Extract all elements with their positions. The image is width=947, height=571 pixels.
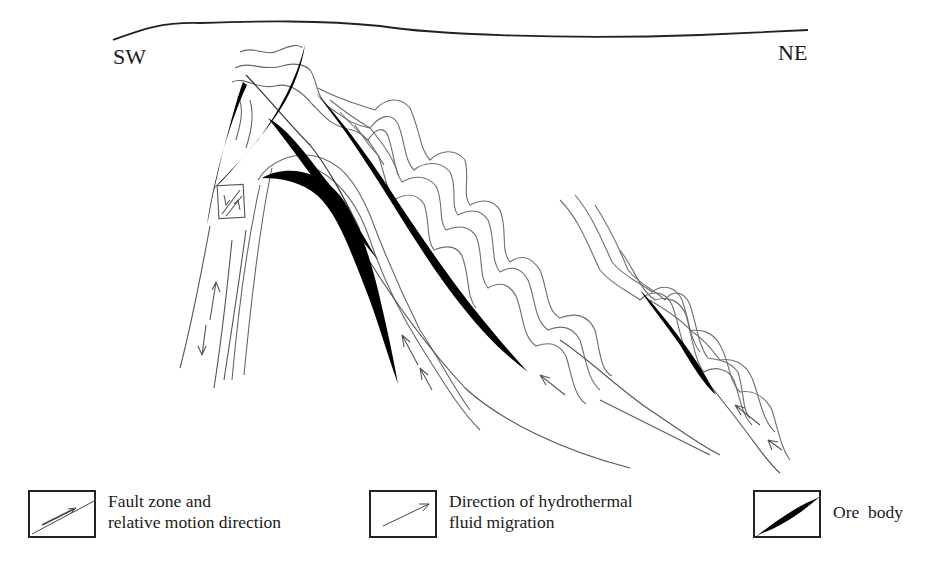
cross-section-drawing xyxy=(0,0,947,480)
anticline-arch xyxy=(232,155,480,430)
ne-folded-strata xyxy=(318,88,790,460)
orientation-label-sw: SW xyxy=(113,44,146,70)
legend-label-line: relative motion direction xyxy=(108,512,281,533)
legend-item-fluid-migration: Direction of hydrothermal fluid migratio… xyxy=(369,490,633,538)
lower-strata xyxy=(370,262,780,473)
ore-body-anticline-arch xyxy=(262,171,398,384)
cross-section-figure: SW NE xyxy=(0,0,947,480)
orientation-label-ne: NE xyxy=(778,40,807,66)
legend-item-ore-body: Ore body xyxy=(753,490,903,538)
left-limb-strata xyxy=(180,226,246,388)
fault-motion-box xyxy=(217,184,245,218)
fluid-arrow-icon xyxy=(369,490,437,538)
ore-bodies xyxy=(207,45,716,395)
ore-body-icon xyxy=(753,490,821,538)
legend-label-line: Fault zone and xyxy=(108,491,281,512)
legend-item-fault-zone: Fault zone and relative motion direction xyxy=(28,490,281,538)
legend-label-line: Direction of hydrothermal xyxy=(449,491,633,512)
ore-body-middle-fault xyxy=(268,118,378,260)
legend-label-fault-zone: Fault zone and relative motion direction xyxy=(108,491,281,533)
legend-label-ore-body: Ore body xyxy=(833,502,903,523)
fault-zone-icon xyxy=(28,490,96,538)
legend-label-fluid-migration: Direction of hydrothermal fluid migratio… xyxy=(449,491,633,533)
legend-label-line: Ore body xyxy=(833,502,903,523)
ground-surface-line xyxy=(113,21,808,40)
legend-label-line: fluid migration xyxy=(449,512,633,533)
legend: Fault zone and relative motion direction… xyxy=(0,490,947,550)
